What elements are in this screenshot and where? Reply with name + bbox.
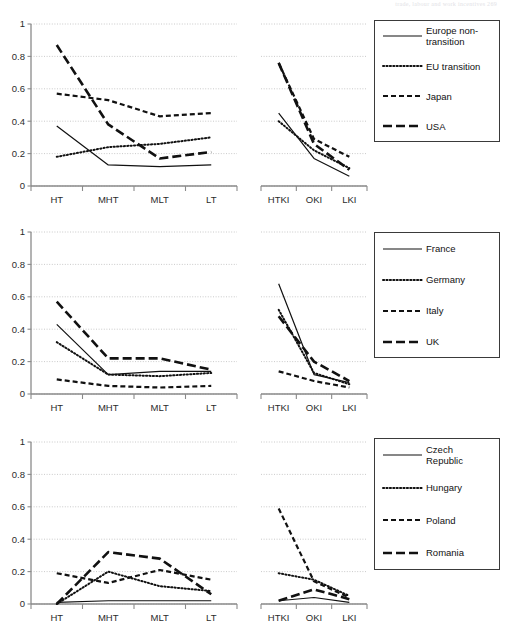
x-category-label: MHT <box>98 402 119 413</box>
figure-1-panel-left: 00.20.40.60.81HTMHTMLTLT <box>12 18 237 205</box>
figure-3-panel-left: 00.20.40.60.81HTMHTMLTLT <box>12 436 237 623</box>
x-category-label: MHT <box>98 194 119 205</box>
figure-1-panel-right: HTKIOKILKI <box>261 24 367 205</box>
figure-2-panel-left: 00.20.40.60.81HTMHTMLTLT <box>12 226 237 413</box>
y-tick-label: 0.6 <box>12 501 25 512</box>
x-category-label: LT <box>206 194 217 205</box>
legend-line-sample <box>382 305 424 317</box>
legend-line-sample <box>382 336 424 348</box>
legend-item-label: UK <box>426 336 439 347</box>
legend-swatch-solid <box>382 21 426 51</box>
y-tick-label: 0.4 <box>12 116 25 127</box>
legend-item-label: USA <box>426 121 446 132</box>
legend-item: Japan <box>375 81 499 111</box>
legend-line-sample <box>382 547 424 559</box>
legend-item-label: Italy <box>426 305 443 316</box>
y-tick-label: 0.2 <box>12 566 25 577</box>
x-category-label: MHT <box>98 612 119 623</box>
legend-item: Poland <box>375 504 499 537</box>
series-line <box>279 113 350 176</box>
x-category-label: HTKI <box>268 194 290 205</box>
legend-line-sample <box>382 90 424 102</box>
x-category-label: MLT <box>151 194 169 205</box>
series-line <box>57 324 212 374</box>
legend-item-label: Germany <box>426 274 465 285</box>
legend-swatch-longdash <box>382 326 426 357</box>
legend-item: Romania <box>375 537 499 570</box>
series-line <box>57 552 212 604</box>
x-category-label: HT <box>50 612 63 623</box>
legend-swatch-dashed <box>382 504 426 537</box>
running-head: trade, labour and work incentives 269 <box>395 1 497 7</box>
x-category-label: LKI <box>342 194 356 205</box>
series-line <box>57 45 212 158</box>
legend-item-label: Czech Republic <box>426 444 463 466</box>
x-category-label: LKI <box>342 402 356 413</box>
legend-swatch-dashed <box>382 81 426 111</box>
figure-3-panel-right: HTKIOKILKI <box>261 442 367 623</box>
x-category-label: MLT <box>151 612 169 623</box>
legend-item-label: Poland <box>426 515 456 526</box>
legend-swatch-longdash <box>382 111 426 141</box>
legend-item: Czech Republic <box>375 439 499 472</box>
legend-swatch-dotted <box>382 264 426 295</box>
x-category-label: LT <box>206 402 217 413</box>
figure-2-legend: FranceGermanyItalyUK <box>374 232 500 358</box>
legend-line-sample <box>382 514 424 526</box>
legend-swatch-dotted <box>382 472 426 505</box>
series-line <box>279 284 350 383</box>
series-line <box>279 598 350 603</box>
y-tick-label: 0.8 <box>12 259 25 270</box>
y-tick-label: 1 <box>20 18 25 29</box>
y-tick-label: 1 <box>20 436 25 447</box>
x-category-label: OKI <box>306 402 322 413</box>
series-line <box>57 601 212 603</box>
x-category-label: LT <box>206 612 217 623</box>
legend-item: EU transition <box>375 51 499 81</box>
legend-item: France <box>375 233 499 264</box>
legend-swatch-solid <box>382 233 426 264</box>
series-line <box>57 379 212 387</box>
y-tick-label: 0 <box>20 388 25 399</box>
legend-swatch-longdash <box>382 537 426 570</box>
legend-swatch-solid <box>382 439 426 472</box>
legend-line-sample <box>382 120 424 132</box>
y-tick-label: 0.8 <box>12 51 25 62</box>
legend-swatch-dashed <box>382 295 426 326</box>
series-line <box>57 572 212 604</box>
y-tick-label: 0.4 <box>12 534 25 545</box>
legend-item-label: Hungary <box>426 482 462 493</box>
legend-swatch-dotted <box>382 51 426 81</box>
figure-1-legend: Europe non- transitionEU transitionJapan… <box>374 20 500 142</box>
x-category-label: OKI <box>306 194 322 205</box>
legend-item: Italy <box>375 295 499 326</box>
x-category-label: MLT <box>151 402 169 413</box>
y-tick-label: 0.6 <box>12 83 25 94</box>
legend-item: Hungary <box>375 472 499 505</box>
legend-line-sample <box>382 30 424 42</box>
legend-item: USA <box>375 111 499 141</box>
x-category-label: OKI <box>306 612 322 623</box>
legend-item-label: Romania <box>426 547 464 558</box>
legend-item: Europe non- transition <box>375 21 499 51</box>
figure-3-legend: Czech RepublicHungaryPolandRomania <box>374 438 500 570</box>
series-line <box>57 94 212 117</box>
figure-2-panel-right: HTKIOKILKI <box>261 232 367 413</box>
legend-line-sample <box>382 274 424 286</box>
legend-item-label: EU transition <box>426 61 480 72</box>
series-line <box>279 508 350 597</box>
legend-line-sample <box>382 482 424 494</box>
series-line <box>279 63 350 157</box>
y-tick-label: 1 <box>20 226 25 237</box>
legend-item: Germany <box>375 264 499 295</box>
x-category-label: HTKI <box>268 402 290 413</box>
legend-line-sample <box>382 243 424 255</box>
x-category-label: LKI <box>342 612 356 623</box>
legend-item-label: Europe non- transition <box>426 25 478 47</box>
y-tick-label: 0.8 <box>12 469 25 480</box>
y-tick-label: 0 <box>20 598 25 609</box>
y-tick-label: 0.6 <box>12 291 25 302</box>
y-tick-label: 0.2 <box>12 356 25 367</box>
series-line <box>57 302 212 370</box>
x-category-label: HT <box>50 402 63 413</box>
